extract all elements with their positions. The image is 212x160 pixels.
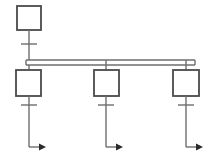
feeder-box-3[interactable] (173, 70, 199, 96)
busbar[interactable] (26, 60, 195, 65)
single-line-diagram (0, 0, 212, 160)
output-arrow-3-icon (196, 144, 203, 151)
output-arrow-2-icon (116, 144, 123, 151)
feeder-branch-2 (94, 60, 123, 150)
source-box[interactable] (17, 6, 41, 30)
source-branch (17, 6, 41, 60)
feeder-branch-3 (173, 60, 203, 150)
feeder-branch-1 (16, 65, 46, 150)
diagram-canvas (0, 0, 212, 160)
output-arrow-1-icon (39, 144, 46, 151)
feeder-box-1[interactable] (16, 70, 41, 96)
feeder-box-2[interactable] (94, 70, 119, 96)
